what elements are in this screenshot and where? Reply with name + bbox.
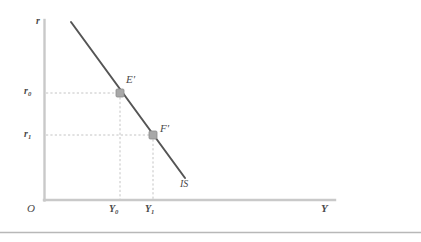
point-label-f-prime: F′ [160, 123, 169, 134]
x-tick-label-y0-subscript: 0 [115, 208, 118, 215]
y-tick-label-r1-subscript: 1 [28, 133, 31, 140]
y-tick-label-r0-subscript: 0 [28, 90, 31, 97]
x-tick-label-y1: Y1 [145, 204, 154, 214]
origin-label: O [27, 203, 35, 214]
curve-label-is: IS [180, 179, 188, 189]
point-marker-f-prime [149, 131, 157, 139]
y-tick-label-r1: r1 [24, 129, 31, 139]
x-tick-label-y1-subscript: 1 [151, 208, 154, 215]
is-curve-line [71, 22, 185, 178]
figure-canvas: r Y O r0 r1 Y0 Y1 E′ F′ IS [0, 0, 421, 242]
y-axis-label: r [36, 16, 40, 26]
x-axis-label: Y [321, 203, 328, 214]
y-tick-label-r0: r0 [24, 86, 31, 96]
point-marker-e-prime [116, 89, 124, 97]
is-curve-chart [0, 0, 421, 242]
x-tick-label-y0: Y0 [109, 204, 118, 214]
point-label-e-prime: E′ [126, 74, 135, 85]
